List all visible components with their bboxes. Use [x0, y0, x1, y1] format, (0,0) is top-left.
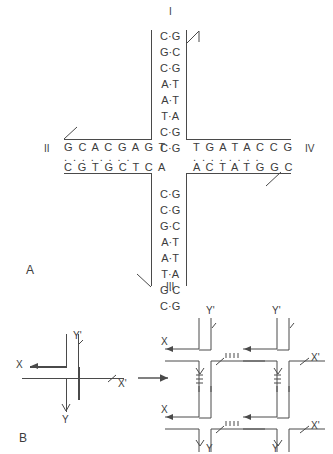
strand-end-arrow-upper-right: [186, 31, 199, 44]
strand-end-arrow-lower-left: [137, 274, 151, 287]
strand-end-arrow-lower-right: [266, 172, 281, 186]
sticky-end-hatches: [196, 353, 281, 426]
monomer-arrowheads: [31, 340, 116, 411]
figure-canvas: A I II III IV C·G G·C C·G A·T A·T T·A C·…: [0, 0, 333, 454]
lattice-arrowheads: [166, 323, 309, 446]
strand-end-arrow-upper-left: [64, 127, 77, 139]
vector-overlay: [0, 0, 333, 454]
